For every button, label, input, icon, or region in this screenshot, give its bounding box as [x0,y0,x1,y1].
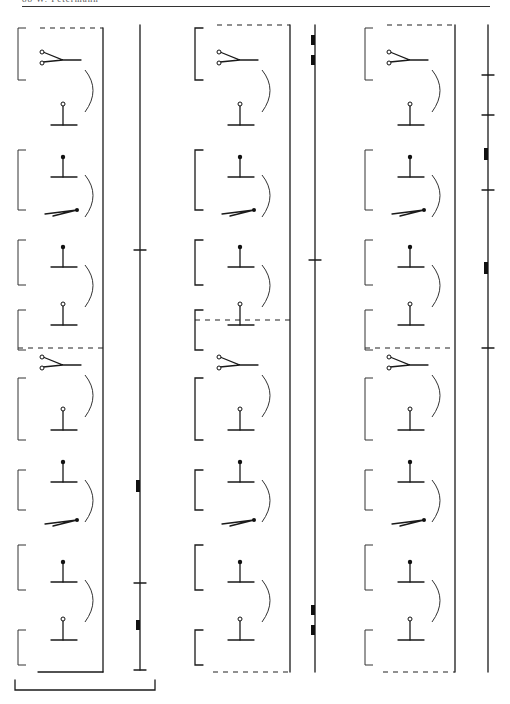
document-page: 88 W. Petermann [0,0,510,704]
bracket [18,150,26,210]
filled-dot-icon [61,155,65,159]
arc-symbol [85,70,93,112]
open-dot-icon [40,366,44,370]
filled-dot-icon [408,460,412,464]
filled-dot-icon [61,245,65,249]
filled-dot-icon [408,245,412,249]
bottom-bracket [15,680,155,690]
open-dot-icon [61,302,65,306]
open-dot-icon [408,617,412,621]
bracket [365,630,373,665]
filled-dot-icon [422,518,426,522]
bracket [195,150,203,210]
filled-dot-icon [75,208,79,212]
filled-dot-icon [238,155,242,159]
open-dot-icon [387,366,391,370]
open-dot-icon [217,366,221,370]
duration-block [311,625,315,635]
wedge-symbol [45,520,77,526]
arc-symbol [432,70,440,112]
open-dot-icon [40,355,44,359]
open-dot-icon [61,407,65,411]
bracket [18,630,26,665]
filled-dot-icon [422,208,426,212]
filled-dot-icon [408,155,412,159]
v-symbol [220,357,258,367]
open-dot-icon [387,50,391,54]
arc-symbol [262,375,270,417]
open-dot-icon [238,617,242,621]
filled-dot-icon [61,560,65,564]
arc-symbol [262,580,270,622]
bracket [195,310,203,350]
arc-symbol [432,175,440,217]
bracket [365,150,373,210]
arc-symbol [432,480,440,522]
arc-symbol [432,375,440,417]
bracket [195,28,203,80]
notation-score [0,0,510,704]
bracket [365,310,373,350]
duration-block [311,605,315,615]
v-symbol [390,357,428,367]
filled-dot-icon [238,460,242,464]
bracket [365,28,373,80]
arc-symbol [262,70,270,112]
arc-symbol [85,265,93,307]
open-dot-icon [217,50,221,54]
duration-block [136,620,140,630]
filled-dot-icon [238,560,242,564]
arc-symbol [432,265,440,307]
bracket [18,28,26,80]
bracket [18,310,26,350]
open-dot-icon [61,617,65,621]
v-symbol [43,357,81,367]
bracket [195,630,203,665]
open-dot-icon [387,355,391,359]
bracket [365,545,373,590]
wedge-symbol [222,210,254,216]
wedge-symbol [45,210,77,216]
filled-dot-icon [252,208,256,212]
duration-block [311,55,315,65]
arc-symbol [262,265,270,307]
bracket [365,470,373,510]
filled-dot-icon [75,518,79,522]
filled-dot-icon [61,460,65,464]
bracket [365,378,373,440]
arc-symbol [262,480,270,522]
wedge-symbol [222,520,254,526]
filled-dot-icon [252,518,256,522]
open-dot-icon [217,61,221,65]
arc-symbol [85,580,93,622]
v-symbol [43,52,81,62]
arc-symbol [262,175,270,217]
open-dot-icon [408,302,412,306]
open-dot-icon [40,61,44,65]
filled-dot-icon [408,560,412,564]
arc-symbol [432,580,440,622]
v-symbol [390,52,428,62]
open-dot-icon [238,407,242,411]
bracket [195,378,203,440]
bracket [195,545,203,590]
open-dot-icon [408,407,412,411]
bracket [18,378,26,440]
duration-block [311,35,315,45]
bracket [365,240,373,285]
bracket [18,240,26,285]
wedge-symbol [392,520,424,526]
v-symbol [220,52,258,62]
bracket [195,470,203,510]
bracket [18,470,26,510]
open-dot-icon [408,102,412,106]
open-dot-icon [387,61,391,65]
duration-block [484,262,488,274]
open-dot-icon [238,102,242,106]
open-dot-icon [40,50,44,54]
filled-dot-icon [238,245,242,249]
bracket [195,240,203,285]
open-dot-icon [217,355,221,359]
arc-symbol [85,480,93,522]
open-dot-icon [61,102,65,106]
